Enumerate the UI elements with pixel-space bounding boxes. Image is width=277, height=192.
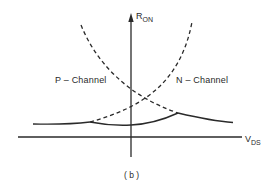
x-axis-subscript: DS bbox=[251, 139, 261, 146]
p-channel-label: P – Channel bbox=[55, 76, 107, 85]
p-channel-dashed-curve bbox=[81, 25, 178, 113]
n-channel-dashed-curve bbox=[90, 22, 192, 122]
y-axis-label: RON bbox=[136, 12, 153, 21]
n-channel-solid-tail bbox=[178, 113, 233, 123]
x-axis-label: VDS bbox=[245, 135, 261, 144]
n-channel-label: N – Channel bbox=[176, 76, 228, 85]
y-axis-symbol: R bbox=[136, 11, 143, 21]
ron-vs-vds-diagram bbox=[0, 0, 277, 192]
combined-ron-curve bbox=[90, 113, 178, 125]
y-axis-subscript: ON bbox=[143, 16, 154, 23]
figure-caption: ( b ) bbox=[124, 171, 139, 180]
y-axis-arrowhead-icon bbox=[128, 13, 133, 22]
p-channel-solid-tail bbox=[33, 122, 90, 124]
